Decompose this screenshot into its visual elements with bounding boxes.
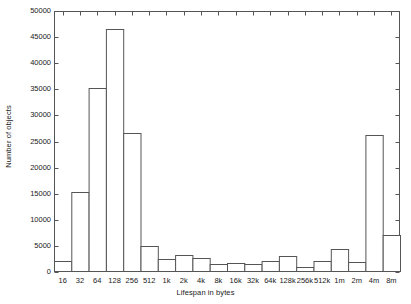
- x-axis-title-text: Lifespan in bytes: [177, 288, 235, 297]
- x-tick-label: 256k: [297, 277, 313, 285]
- x-tick-label: 16k: [230, 277, 242, 285]
- x-tick-label: 64k: [264, 277, 276, 285]
- x-tick-label: 32k: [247, 277, 259, 285]
- x-tick-label: 1k: [162, 277, 170, 285]
- x-axis-title: Lifespan in bytes: [0, 288, 411, 297]
- x-tick-label: 32: [76, 277, 84, 285]
- x-tick-label: 512k: [314, 277, 330, 285]
- x-tick-label: 4k: [197, 277, 205, 285]
- x-tick-label: 8m: [386, 277, 396, 285]
- x-tick-label: 8k: [214, 277, 222, 285]
- x-tick-label: 2k: [180, 277, 188, 285]
- x-tick-label: 1m: [334, 277, 344, 285]
- x-tick-label: 512: [143, 277, 156, 285]
- histogram-chart: Number of objects 0500010000150002000025…: [0, 0, 411, 304]
- x-tick-label: 128k: [279, 277, 295, 285]
- x-tick-label: 64: [93, 277, 101, 285]
- x-tick-label: 16: [58, 277, 66, 285]
- x-tick-label: 128: [108, 277, 121, 285]
- x-tick-label: 4m: [369, 277, 379, 285]
- x-tick-label: 2m: [352, 277, 362, 285]
- x-axis-tick-labels: 1632641282565121k2k4k8k16k32k64k128k256k…: [0, 0, 411, 304]
- x-tick-label: 256: [126, 277, 139, 285]
